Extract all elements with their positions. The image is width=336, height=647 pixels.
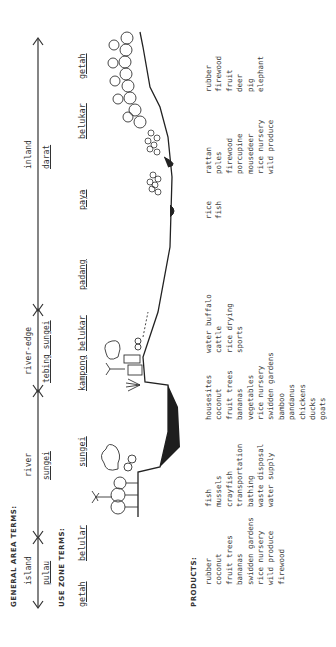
zone-belular: belular <box>77 525 87 561</box>
product-item: porcupine <box>235 120 245 174</box>
products-kampong: housesites coconut fruit trees bananas v… <box>204 352 329 420</box>
area-river-local: sungei <box>42 451 51 480</box>
product-item: firewood <box>225 120 235 174</box>
product-item: elephant <box>256 56 266 92</box>
area-riveredge-en: river-edge <box>24 327 33 375</box>
product-item: rattan <box>204 120 214 174</box>
product-item: water supply <box>266 444 276 507</box>
products-padang: water buffalo cattle rice drying sports <box>204 294 246 353</box>
product-item: firewood <box>214 56 224 92</box>
product-item: bananas <box>235 352 245 420</box>
product-item: ducks <box>308 352 318 420</box>
product-item: rice nursery <box>256 120 266 174</box>
zone-belukar-inland: belukar <box>77 103 87 139</box>
area-river-en: river <box>24 453 33 477</box>
product-item: chickens <box>298 352 308 420</box>
product-item: cattle <box>214 294 224 353</box>
zone-paya: paya <box>77 190 87 210</box>
product-item: goats <box>318 352 328 420</box>
product-item: pandanus <box>287 352 297 420</box>
product-item: rice <box>204 201 214 219</box>
product-item: wild produce <box>266 517 276 585</box>
product-item: housesites <box>204 352 214 420</box>
product-item: waste disposal <box>256 444 266 507</box>
general-area-terms-header: GENERAL AREA TERMS: <box>10 505 18 607</box>
product-item: fruit trees <box>225 517 235 585</box>
transect-diagram: GENERAL AREA TERMS: USE ZONE TERMS: PROD… <box>0 0 336 647</box>
products-header: PRODUCTS: <box>190 557 198 607</box>
product-item: mussels <box>214 444 224 507</box>
product-item: vegetables <box>246 352 256 420</box>
product-item: rubber <box>204 56 214 92</box>
zone-padang: padang <box>77 259 87 290</box>
product-item: swidden gardens <box>266 352 276 420</box>
product-item: rice nursery <box>256 352 266 420</box>
product-item: sports <box>235 294 245 353</box>
product-item: fruit <box>225 56 235 92</box>
zone-getah-island: getah <box>77 581 87 607</box>
product-item: pig <box>246 56 256 92</box>
area-inland-en: inland <box>24 140 33 169</box>
products-sungei: fish mussels crayfish transportation bat… <box>204 444 277 507</box>
use-zone-terms-header: USE ZONE TERMS: <box>58 528 66 607</box>
product-item: mousedeer <box>246 120 256 174</box>
area-inland-local: darat <box>42 145 51 169</box>
zone-sungei: sungei <box>77 436 87 467</box>
product-item: bamboo <box>277 352 287 420</box>
zone-kampong: kampong <box>77 355 87 391</box>
product-item: firewood <box>277 517 287 585</box>
product-item: bathing <box>246 444 256 507</box>
zone-getah-inland: getah <box>77 53 87 79</box>
product-item: swidden gardens <box>246 517 256 585</box>
area-island-en: island <box>24 556 33 585</box>
product-item: bananas <box>235 517 245 585</box>
products-getah-inland: rubber firewood fruit deer pig elephant <box>204 56 266 92</box>
area-riveredge-local: tebing sungei <box>42 320 51 383</box>
product-item: rice drying <box>225 294 235 353</box>
area-island-local: pulau <box>42 561 51 585</box>
product-item: fish <box>204 444 214 507</box>
product-item: fruit trees <box>225 352 235 420</box>
product-item: wild produce <box>266 120 276 174</box>
product-item: poles <box>214 120 224 174</box>
products-getah-belular: rubber coconut fruit trees bananas swidd… <box>204 517 287 585</box>
products-paya: rice fish <box>204 201 225 219</box>
product-item: water buffalo <box>204 294 214 353</box>
product-item: rubber <box>204 517 214 585</box>
product-item: rice nursery <box>256 517 266 585</box>
products-belukar-inland: rattan poles firewood porcupine mousedee… <box>204 120 277 174</box>
product-item: coconut <box>214 517 224 585</box>
product-item: coconut <box>214 352 224 420</box>
product-item: crayfish <box>225 444 235 507</box>
product-item: deer <box>235 56 245 92</box>
zone-belukar-riveredge: belukar <box>77 315 87 351</box>
product-item: fish <box>214 201 224 219</box>
product-item: transportation <box>235 444 245 507</box>
